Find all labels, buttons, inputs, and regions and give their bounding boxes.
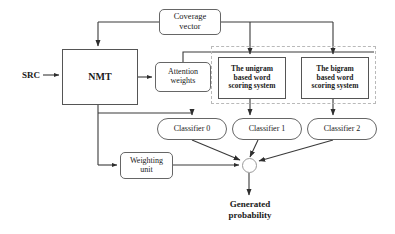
edge-nmt-to-classifier-0 [98, 113, 192, 115]
bigram-scoring-system-block[interactable]: The bigram based word scoring system [301, 57, 369, 99]
classifier-0-block[interactable]: Classifier 0 [157, 118, 227, 140]
edge-classifier-0-to-merge [192, 140, 240, 160]
src-label: SRC [14, 68, 48, 82]
nmt-block[interactable]: NMT [62, 49, 138, 105]
merge-point-node [242, 158, 257, 173]
weighting-unit-block[interactable]: Weighting unit [120, 152, 173, 179]
diagram-connectors [0, 0, 395, 234]
edge-classifier-2-to-merge [259, 140, 333, 161]
unigram-scoring-system-block[interactable]: The unigram based word scoring system [218, 57, 286, 99]
coverage-vector-block[interactable]: Coverage vector [159, 9, 221, 35]
edge-classifier-1-to-merge [250, 140, 258, 157]
classifier-1-block[interactable]: Classifier 1 [232, 118, 302, 140]
generated-probability-label: Generated probability [210, 199, 290, 220]
attention-weights-block[interactable]: Attention weights [155, 62, 211, 92]
classifier-2-block[interactable]: Classifier 2 [307, 118, 377, 140]
diagram-canvas: SRC NMT Coverage vector Attention weight… [0, 0, 395, 234]
